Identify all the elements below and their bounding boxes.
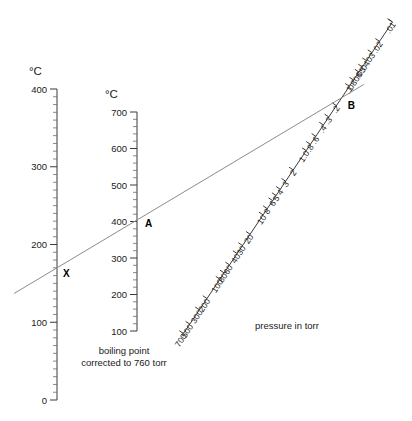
- left-axis-unit-label: °C: [29, 65, 42, 77]
- alignment-line: [14, 84, 364, 293]
- middle-axis-tick-label: 700: [111, 107, 127, 118]
- middle-axis-caption-line1: boiling point: [99, 345, 150, 356]
- left-axis-tick-label: 100: [31, 317, 47, 328]
- left-axis-tick-label: 400: [31, 84, 47, 95]
- middle-axis-tick-label: 500: [111, 180, 127, 191]
- left-axis-group: 4003002001000°C: [29, 65, 57, 406]
- pressure-axis-caption: pressure in torr: [255, 320, 319, 331]
- alignment-line-group: [14, 84, 364, 293]
- middle-axis-group: 700600500400300200100°C: [105, 88, 137, 337]
- left-axis-tick-label: 200: [31, 239, 47, 250]
- middle-axis-unit-label: °C: [105, 88, 118, 100]
- middle-axis-tick-label: 400: [111, 216, 127, 227]
- middle-axis-caption-line2: corrected to 760 torr: [81, 357, 167, 368]
- point-a-label: A: [145, 218, 152, 229]
- middle-axis-tick-label: 200: [111, 289, 127, 300]
- point-x-label: X: [63, 268, 70, 279]
- nomogram-figure: 4003002001000°C 700600500400300200100°C …: [0, 0, 412, 421]
- point-b-label: B: [348, 100, 355, 111]
- middle-axis-tick-label: 600: [111, 143, 127, 154]
- pressure-axis-group: .01.02.03.04.05.06.08.1.2.3.4.6.81.02345…: [173, 19, 398, 349]
- middle-axis-tick-label: 300: [111, 253, 127, 264]
- middle-axis-tick-label: 100: [111, 326, 127, 337]
- left-axis-tick-label: 300: [31, 161, 47, 172]
- left-axis-tick-label: 0: [42, 395, 47, 406]
- nomogram-canvas: 4003002001000°C 700600500400300200100°C …: [0, 0, 412, 421]
- marker-labels-group: XAB: [63, 100, 355, 279]
